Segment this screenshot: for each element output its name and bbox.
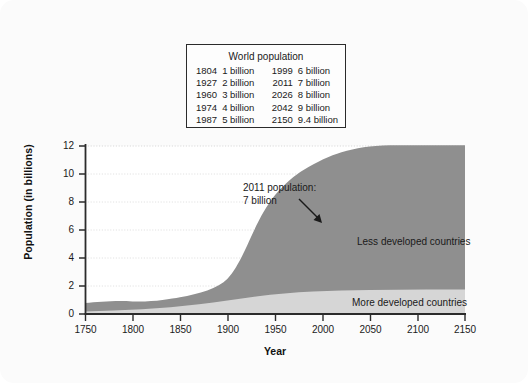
- x-tick-label: 2000: [303, 325, 343, 335]
- x-tick-label: 1750: [66, 325, 106, 335]
- figure-container: World population 1804 1 billion 1999 6 b…: [0, 0, 528, 383]
- annotation-2011-population: 2011 population: 7 billion: [243, 182, 316, 207]
- y-tick-label: 8: [52, 197, 74, 207]
- x-tick-label: 2050: [351, 325, 391, 335]
- y-tick-label: 6: [52, 225, 74, 235]
- x-tick-marks: [86, 314, 466, 321]
- y-tick-label: 10: [52, 169, 74, 179]
- annotation-line-1: 2011 population:: [243, 182, 316, 195]
- population-area-chart: 12 10 8 6 4 2 0 1750 1800 1850 1900 1950…: [0, 0, 528, 383]
- series-label-more-developed: More developed countries: [352, 297, 467, 308]
- y-tick-label: 4: [52, 253, 74, 263]
- y-tick-label: 12: [52, 141, 74, 151]
- x-tick-label: 1800: [113, 325, 153, 335]
- x-tick-label: 1950: [256, 325, 296, 335]
- series-label-less-developed: Less developed countries: [357, 236, 470, 247]
- y-tick-label: 2: [52, 281, 74, 291]
- x-axis-title: Year: [85, 345, 465, 357]
- x-tick-label: 1850: [161, 325, 201, 335]
- y-tick-marks: [79, 146, 85, 314]
- x-tick-label: 1900: [208, 325, 248, 335]
- x-tick-label: 2150: [445, 325, 485, 335]
- y-tick-label: 0: [52, 309, 74, 319]
- y-axis-title: Population (in billions): [22, 132, 34, 272]
- annotation-line-2: 7 billion: [243, 195, 316, 208]
- x-tick-label: 2100: [398, 325, 438, 335]
